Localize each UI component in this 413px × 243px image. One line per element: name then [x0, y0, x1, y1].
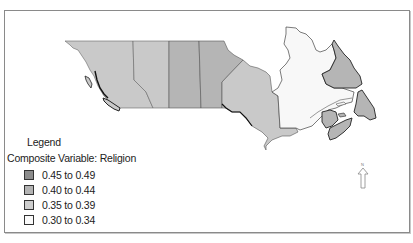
newfoundland-island [354, 90, 376, 120]
legend-subtitle: Composite Variable: Religion [7, 152, 136, 164]
legend-label: 0.40 to 0.44 [42, 184, 95, 196]
north-label: N [361, 162, 364, 167]
province-saskatchewan[interactable] [169, 41, 201, 108]
legend-label: 0.45 to 0.49 [42, 169, 95, 181]
legend-swatch [24, 200, 34, 210]
legend-swatch [24, 185, 34, 195]
legend-label: 0.35 to 0.39 [42, 199, 95, 211]
haida-gwaii [85, 76, 92, 88]
legend-swatch [24, 215, 34, 225]
legend-label: 0.30 to 0.34 [42, 214, 95, 226]
legend-title: Legend [27, 136, 61, 148]
legend-swatch [24, 170, 34, 180]
province-prince-edward-island[interactable] [338, 113, 346, 117]
north-arrow-icon [358, 168, 368, 188]
north-arrow: N [356, 161, 370, 191]
